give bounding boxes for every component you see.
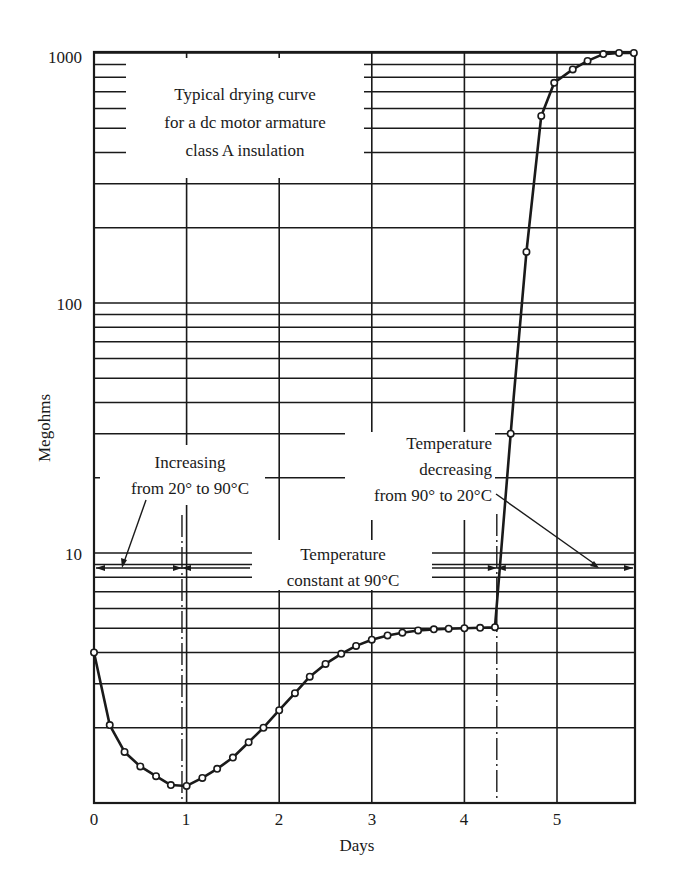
data-point-marker (492, 624, 498, 630)
chart-title-line-3: class A insulation (186, 141, 306, 160)
data-point-marker (508, 431, 514, 437)
data-point-marker (230, 754, 236, 760)
data-point-marker (600, 51, 606, 57)
data-point-marker (91, 649, 97, 655)
data-point-marker (431, 626, 437, 632)
phase3-label-line-1: Temperature (406, 434, 492, 453)
data-point-marker (551, 80, 557, 86)
data-point-marker (353, 643, 359, 649)
drying-curve-chart: Typical drying curve for a dc motor arma… (0, 0, 673, 891)
data-point-marker (369, 636, 375, 642)
data-point-marker (307, 674, 313, 680)
phase3-label-line-3: from 90° to 20°C (374, 486, 492, 505)
phase1-label-line-1: Increasing (155, 453, 226, 472)
phase2-label-line-2: constant at 90°C (287, 571, 400, 590)
phase2-label-line-1: Temperature (300, 545, 386, 564)
data-point-marker (168, 782, 174, 788)
y-tick-10: 10 (65, 545, 82, 564)
data-point-marker (477, 625, 483, 631)
data-point-marker (260, 725, 266, 731)
data-point-marker (292, 690, 298, 696)
data-point-marker (183, 783, 189, 789)
data-point-marker (153, 773, 159, 779)
data-point-marker (199, 775, 205, 781)
data-point-marker (276, 707, 282, 713)
data-point-marker (214, 766, 220, 772)
chart-title-line-2: for a dc motor armature (164, 113, 325, 132)
data-point-marker (107, 722, 113, 728)
data-point-marker (445, 625, 451, 631)
x-tick-2: 2 (275, 810, 284, 829)
data-point-marker (245, 739, 251, 745)
data-point-marker (523, 249, 529, 255)
y-tick-1000: 1000 (48, 48, 82, 67)
x-tick-1: 1 (182, 810, 191, 829)
data-point-marker (322, 661, 328, 667)
y-tick-100: 100 (57, 295, 83, 314)
chart-title-line-1: Typical drying curve (174, 85, 315, 104)
x-tick-3: 3 (368, 810, 377, 829)
data-point-marker (399, 629, 405, 635)
x-tick-4: 4 (460, 810, 469, 829)
phase1-label-line-2: from 20° to 90°C (131, 479, 249, 498)
y-axis-title: Megohms (35, 394, 54, 462)
data-point-marker (137, 763, 143, 769)
phase3-label-line-2: decreasing (419, 460, 492, 479)
data-point-marker (538, 113, 544, 119)
data-point-marker (121, 749, 127, 755)
phase-arrows (96, 494, 633, 800)
x-tick-5: 5 (553, 810, 562, 829)
data-point-marker (584, 58, 590, 64)
data-point-marker (415, 627, 421, 633)
data-point-marker (616, 50, 622, 56)
data-point-marker (461, 625, 467, 631)
data-point-marker (384, 632, 390, 638)
x-axis-title: Days (340, 836, 375, 855)
data-point-marker (338, 651, 344, 657)
data-point-marker (570, 66, 576, 72)
x-tick-0: 0 (90, 810, 99, 829)
data-point-marker (631, 50, 637, 56)
